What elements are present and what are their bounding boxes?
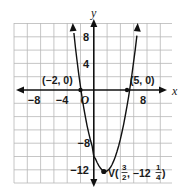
svg-text:V(: V( (108, 167, 119, 179)
vertex-y-numerator: 1 (156, 163, 161, 172)
tick-y-neg8: −8 (77, 137, 90, 149)
point-right-label: (5, 0) (130, 74, 155, 86)
svg-text:, −12: , −12 (127, 167, 151, 179)
point-neg2-0 (78, 88, 82, 92)
x-axis-left-arrow-icon (16, 87, 24, 94)
tick-x-neg8: −8 (28, 94, 41, 106)
y-axis-up-arrow-icon (90, 19, 97, 27)
tick-y-4: 4 (83, 58, 90, 70)
point-5-0 (125, 88, 129, 92)
x-axis (16, 87, 167, 94)
point-left-label: (−2, 0) (42, 74, 73, 86)
parabola-right-arrow-icon (134, 23, 141, 32)
parabola-left-arrow-icon (70, 23, 77, 32)
tick-x-neg4: −4 (56, 94, 69, 106)
tick-x-8: 8 (140, 94, 146, 106)
vertex-point (101, 169, 106, 174)
x-axis-right-arrow-icon (159, 87, 167, 94)
vertex-y-denominator: 4 (156, 173, 161, 182)
parabola-line (74, 33, 137, 172)
x-axis-label: x (171, 84, 178, 98)
svg-text:): ) (162, 167, 166, 179)
tick-y-neg12: −12 (70, 164, 89, 176)
tick-y-8: 8 (83, 31, 89, 43)
vertex-label: V( 3 2 , −12 1 4 ) (108, 163, 166, 182)
parabola-graph: x y −8 −4 8 O 8 4 −8 −12 (−2, 0) (5, 0) … (0, 0, 189, 194)
y-axis-label: y (90, 6, 97, 20)
